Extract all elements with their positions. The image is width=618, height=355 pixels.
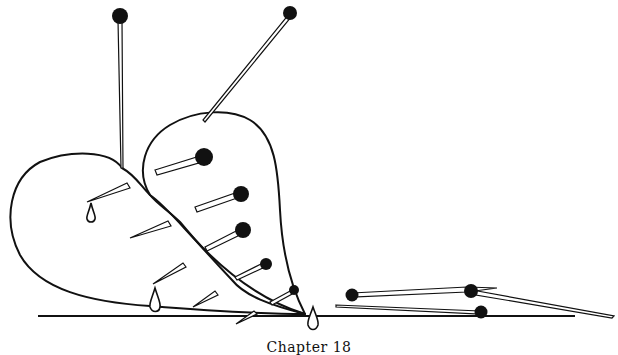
pin-right-5 [270, 285, 299, 305]
pin-left-2 [130, 221, 171, 238]
pin-right-1 [155, 148, 213, 175]
pin-left-3 [153, 263, 186, 284]
pin-left-4 [193, 291, 218, 307]
hearts-illustration [0, 0, 618, 355]
drop-1 [87, 203, 95, 222]
pin-right-3 [205, 222, 251, 251]
drop-3 [308, 307, 318, 330]
pin-right-4 [235, 258, 272, 280]
caption: Chapter 18 [0, 339, 618, 355]
pin-vertical [112, 8, 128, 168]
left-heart-outline [10, 154, 305, 314]
pin-diagonal [203, 6, 297, 122]
drop-2 [150, 288, 160, 312]
pin-right-2 [195, 186, 249, 212]
pin-left-1 [87, 183, 130, 202]
right-heart-outline [143, 112, 305, 314]
